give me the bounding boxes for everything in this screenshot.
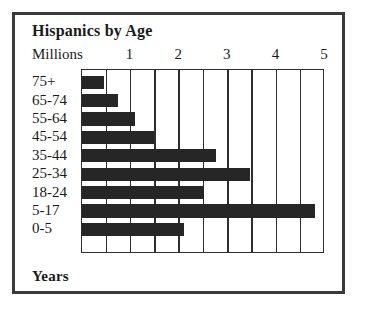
chart-title: Hispanics by Age — [32, 22, 153, 40]
x-tick-label: 5 — [320, 46, 328, 63]
bar-row — [82, 223, 323, 236]
x-axis-tick-labels: 12345 — [15, 46, 342, 64]
y-category-label: 35-44 — [32, 148, 67, 163]
bar — [82, 76, 104, 89]
plot-area — [81, 69, 324, 253]
y-category-label: 0-5 — [32, 221, 52, 236]
y-category-label: 75+ — [32, 74, 55, 89]
x-tick-label: 4 — [272, 46, 280, 63]
bar — [82, 223, 184, 236]
bar-row — [82, 186, 323, 199]
bar-row — [82, 94, 323, 107]
y-category-label: 18-24 — [32, 185, 67, 200]
bar — [82, 168, 250, 181]
y-category-label: 45-54 — [32, 129, 67, 144]
y-axis-category-labels: 75+65-7455-6445-5435-4425-3418-245-170-5 — [15, 69, 81, 253]
chart-figure: Hispanics by Age Millions 12345 75+65-74… — [12, 12, 345, 294]
bar-series — [82, 70, 323, 252]
bar-row — [82, 149, 323, 162]
bar-row — [82, 131, 323, 144]
bar-row — [82, 112, 323, 125]
bar — [82, 149, 216, 162]
y-category-label: 65-74 — [32, 93, 67, 108]
y-category-label: 25-34 — [32, 166, 67, 181]
y-category-label: 55-64 — [32, 111, 67, 126]
bar — [82, 112, 135, 125]
y-category-label: 5-17 — [32, 203, 60, 218]
x-tick-label: 1 — [126, 46, 134, 63]
bar-row — [82, 204, 323, 217]
bar — [82, 204, 315, 217]
y-axis-label: Years — [32, 268, 69, 285]
bar-row — [82, 76, 323, 89]
bar — [82, 131, 154, 144]
bar — [82, 94, 118, 107]
x-tick-label: 2 — [174, 46, 182, 63]
bar — [82, 186, 204, 199]
bar-row — [82, 168, 323, 181]
x-tick-label: 3 — [223, 46, 231, 63]
